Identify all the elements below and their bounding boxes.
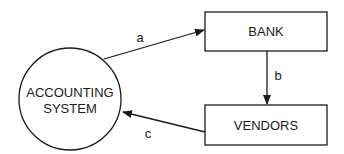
- edge-c: c: [123, 112, 205, 141]
- arrow-line: [104, 30, 204, 59]
- flow-diagram: ACCOUNTING SYSTEM BANK VENDORS a b c: [0, 0, 344, 154]
- edge-b: b: [267, 51, 282, 104]
- node-label-line-2: SYSTEM: [43, 101, 96, 116]
- node-label: VENDORS: [234, 118, 299, 133]
- edge-label: a: [136, 30, 144, 45]
- node-label: BANK: [248, 24, 284, 39]
- node-label-line-1: ACCOUNTING: [26, 85, 113, 100]
- node-bank: BANK: [205, 12, 327, 51]
- edge-a: a: [104, 30, 204, 59]
- edge-label: c: [145, 126, 152, 141]
- arrow-line: [123, 112, 205, 132]
- node-vendors: VENDORS: [205, 105, 327, 145]
- diagram-canvas: ACCOUNTING SYSTEM BANK VENDORS a b c: [0, 0, 344, 154]
- node-accounting-system: ACCOUNTING SYSTEM: [19, 48, 121, 150]
- edge-label: b: [274, 68, 281, 83]
